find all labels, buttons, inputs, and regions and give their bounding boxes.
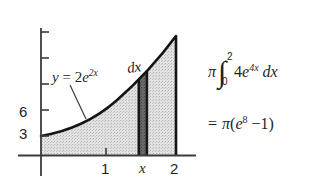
equations-panel: π ∫ 2 0 4e4xdx =π(e8 −1) bbox=[202, 52, 314, 162]
result-pi: π bbox=[222, 115, 230, 132]
result-equals: = bbox=[208, 115, 217, 132]
x-tick-label-x: x bbox=[139, 161, 146, 176]
result-expression: =π(e8 −1) bbox=[208, 114, 274, 133]
curve-eq-equals: = bbox=[59, 69, 75, 85]
y-tick-label-3: 3 bbox=[19, 126, 27, 141]
integral-lower-limit: 0 bbox=[222, 76, 228, 87]
result-minus-one: −1 bbox=[247, 115, 268, 132]
result-close-paren: ) bbox=[269, 115, 274, 132]
y-tick-label-6: 6 bbox=[19, 104, 27, 119]
integral-expression: π ∫ 2 0 4e4xdx bbox=[208, 62, 278, 84]
curve-eq-base: e bbox=[82, 69, 89, 85]
curve-equation-label: y = 2e2x bbox=[52, 69, 98, 85]
dx-strip-label: dx bbox=[126, 59, 142, 76]
figure-root: 6 3 y = 2e2x dx 1 x 2 π ∫ 2 0 4e4xdx =π(… bbox=[0, 0, 314, 188]
integral-upper-limit: 2 bbox=[227, 51, 233, 62]
integral-coefficient: 4 bbox=[234, 63, 242, 80]
x-tick-label-1: 1 bbox=[101, 161, 109, 176]
integral-pi: π bbox=[208, 63, 216, 80]
integral-sign-group: ∫ 2 0 bbox=[216, 64, 234, 84]
shaded-area bbox=[41, 36, 176, 155]
curve-label-leader bbox=[70, 85, 86, 119]
x-tick-label-2: 2 bbox=[170, 161, 178, 176]
integral-differential: dx bbox=[263, 63, 278, 80]
curve-eq-exponent: 2x bbox=[89, 68, 98, 78]
integral-exponent: 4x bbox=[249, 62, 258, 73]
curve-eq-y: y bbox=[52, 69, 59, 85]
dx-strip bbox=[138, 30, 149, 158]
